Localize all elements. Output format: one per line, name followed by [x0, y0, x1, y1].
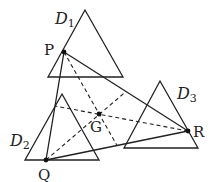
geometry-diagram: P Q R G D1 D2 D3	[0, 0, 210, 182]
point-g	[97, 112, 102, 117]
label-d3: D3	[176, 84, 197, 105]
label-r: R	[193, 123, 205, 141]
point-q	[44, 158, 49, 163]
triangle-d2	[25, 94, 99, 160]
point-r	[186, 129, 191, 134]
label-d1: D1	[54, 9, 75, 30]
label-p: P	[44, 41, 54, 59]
label-d2: D2	[9, 131, 30, 152]
label-g: G	[90, 118, 102, 136]
label-q: Q	[38, 166, 50, 182]
point-p	[62, 50, 67, 55]
